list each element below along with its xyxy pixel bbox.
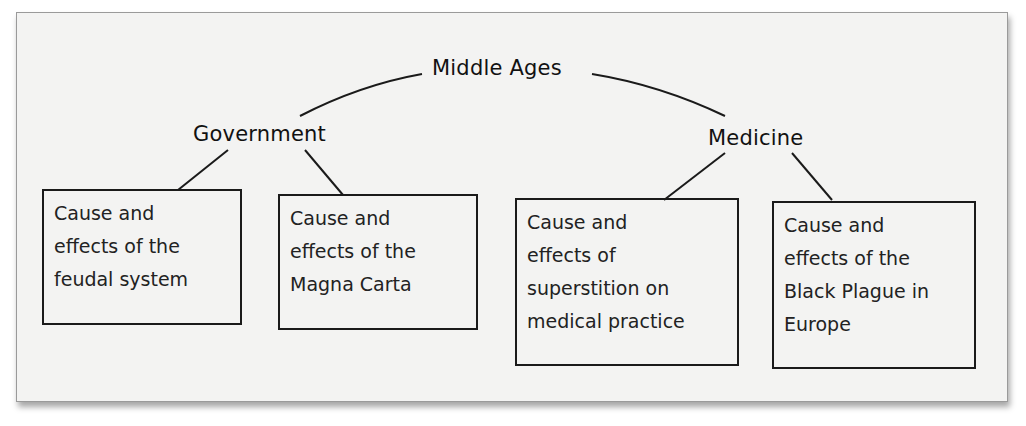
leaf-text-line: Cause and [54, 197, 230, 230]
branch-node-government: Government [193, 122, 326, 146]
leaf-box-magna-carta: Cause and effects of the Magna Carta [278, 194, 478, 330]
leaf-text-line: Cause and [290, 202, 466, 235]
leaf-text-line: effects of the [54, 230, 230, 263]
leaf-text-line: Cause and [527, 206, 727, 239]
leaf-box-black-plague: Cause and effects of the Black Plague in… [772, 201, 976, 369]
leaf-text-line: effects of [527, 239, 727, 272]
leaf-text-line: Black Plague in [784, 275, 964, 308]
branch-node-medicine: Medicine [708, 126, 803, 150]
leaf-text-line: feudal system [54, 263, 230, 296]
leaf-box-superstition: Cause and effects of superstition on med… [515, 198, 739, 366]
leaf-text-line: superstition on [527, 272, 727, 305]
leaf-box-feudal-system: Cause and effects of the feudal system [42, 189, 242, 325]
leaf-text-line: effects of the [784, 242, 964, 275]
leaf-text-line: Magna Carta [290, 268, 466, 301]
root-node-middle-ages: Middle Ages [432, 56, 562, 80]
leaf-text-line: effects of the [290, 235, 466, 268]
leaf-text-line: Europe [784, 308, 964, 341]
leaf-text-line: medical practice [527, 305, 727, 338]
leaf-text-line: Cause and [784, 209, 964, 242]
